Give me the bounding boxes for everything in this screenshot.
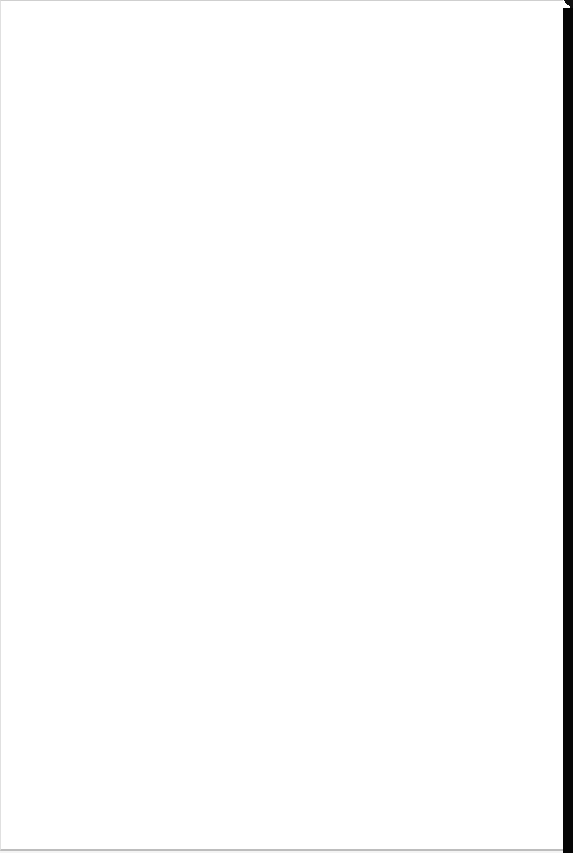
blank-page (0, 0, 563, 851)
binding-edge (563, 8, 573, 853)
